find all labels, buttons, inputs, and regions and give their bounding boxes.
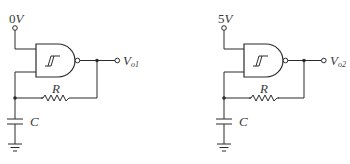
output-label-2: Vo2	[330, 54, 346, 69]
circuit-1	[7, 26, 120, 151]
resistor-label-text-1: R	[52, 81, 60, 96]
supply-wire-1	[15, 30, 36, 49]
output-terminal-2	[322, 58, 327, 63]
nand-gate-1	[36, 44, 75, 77]
output-label-1: Vo1	[123, 54, 139, 69]
output-label-sub-1: o1	[131, 60, 139, 69]
inversion-bubble-1	[75, 58, 80, 63]
supply-terminal-1	[13, 26, 18, 31]
capacitor-label-text-1: C	[30, 114, 39, 129]
capacitor-label-1: C	[30, 115, 39, 128]
supply-wire-2	[224, 30, 244, 49]
output-label-main-2: V	[330, 53, 338, 68]
ground-icon-1	[8, 144, 22, 151]
output-label-main-1: V	[123, 53, 131, 68]
resistor-label-2: R	[260, 82, 268, 95]
output-label-sub-2: o2	[338, 60, 346, 69]
ground-icon-2	[217, 144, 231, 151]
resistor-label-text-2: R	[260, 81, 268, 96]
supply-label-1: 0V	[9, 12, 23, 25]
circuit-2	[216, 26, 326, 151]
output-terminal-1	[115, 58, 120, 63]
resistor-label-1: R	[52, 82, 60, 95]
supply-unit-2: V	[225, 11, 233, 26]
capacitor-label-text-2: C	[239, 114, 248, 129]
nand-gate-2	[244, 44, 283, 77]
supply-label-2: 5V	[218, 12, 232, 25]
supply-terminal-2	[222, 26, 227, 31]
feedback-wire-1	[71, 61, 97, 99]
capacitor-label-2: C	[239, 115, 248, 128]
supply-unit-1: V	[16, 11, 24, 26]
inversion-bubble-2	[283, 58, 288, 63]
